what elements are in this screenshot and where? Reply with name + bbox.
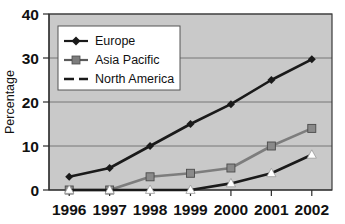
x-tick-label: 2002: [295, 201, 329, 218]
chart-canvas: 010203040 1996199719981999200020012002 P…: [0, 0, 345, 224]
square-icon: [72, 56, 80, 64]
legend-label-europe: Europe: [95, 34, 135, 48]
x-tick-label: 1998: [133, 201, 168, 218]
data-point-square: [227, 164, 235, 172]
legend-label-asia-pacific: Asia Pacific: [95, 53, 160, 67]
x-tick-label: 1997: [92, 201, 126, 218]
data-point-square: [187, 169, 195, 177]
y-tick-label: 0: [30, 182, 39, 199]
legend: Europe Asia Pacific North America: [58, 26, 180, 90]
y-axis-title: Percentage: [3, 70, 17, 134]
x-axis-ticks: 1996199719981999200020012002: [52, 190, 329, 218]
y-tick-label: 30: [22, 50, 39, 67]
line-chart: 010203040 1996199719981999200020012002 P…: [0, 0, 345, 224]
y-tick-label: 40: [22, 6, 39, 23]
data-point-square: [308, 124, 316, 132]
x-tick-label: 2000: [214, 201, 248, 218]
x-tick-label: 2001: [254, 201, 289, 218]
y-tick-label: 10: [22, 138, 39, 155]
x-tick-label: 1996: [52, 201, 87, 218]
legend-label-north-america: North America: [95, 72, 174, 86]
y-axis-ticks: 010203040: [22, 6, 49, 199]
x-tick-label: 1999: [173, 201, 208, 218]
y-tick-label: 20: [22, 94, 39, 111]
data-point-square: [267, 142, 275, 150]
data-point-square: [146, 173, 154, 181]
